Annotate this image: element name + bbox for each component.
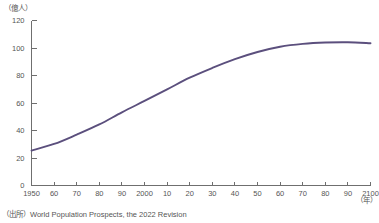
- y-axis-tick-label: 40: [16, 126, 24, 135]
- x-axis-tick-label: 90: [118, 189, 126, 198]
- x-axis-tick-label: 40: [231, 189, 239, 198]
- x-axis-tick-label: 20: [186, 189, 194, 198]
- source-note: （出所）World Population Prospects, the 2022…: [2, 208, 187, 219]
- x-axis-tick-label: 60: [276, 189, 284, 198]
- chart-axes: [32, 21, 371, 186]
- x-axis-tick-label: 30: [208, 189, 216, 198]
- population-line-series: [32, 42, 371, 150]
- x-axis-tick-label: 2000: [136, 189, 153, 198]
- y-axis-tick-label: 60: [16, 99, 24, 108]
- y-axis-tick-label: 100: [12, 44, 25, 53]
- y-axis-tick-label: 120: [12, 16, 25, 25]
- x-axis-tick-label: 60: [50, 189, 58, 198]
- world-population-chart: （億人） 02040608010012019506070809020001020…: [0, 0, 379, 223]
- x-axis-tick-label: 80: [95, 189, 103, 198]
- x-axis-tick-label: 70: [73, 189, 81, 198]
- x-axis-tick-label: 50: [253, 189, 261, 198]
- x-axis-tick-label: 80: [321, 189, 329, 198]
- chart-plot-area: 0204060801001201950607080902000102030405…: [0, 0, 379, 223]
- x-axis-tick-label: 1950: [23, 189, 40, 198]
- x-axis-tick-label: 90: [344, 189, 352, 198]
- x-axis-tick-label: 10: [163, 189, 171, 198]
- y-axis-tick-label: 20: [16, 154, 24, 163]
- y-axis-tick-label: 80: [16, 71, 24, 80]
- x-axis-tick-label: 70: [299, 189, 307, 198]
- x-axis-unit-label: （年）: [356, 194, 377, 205]
